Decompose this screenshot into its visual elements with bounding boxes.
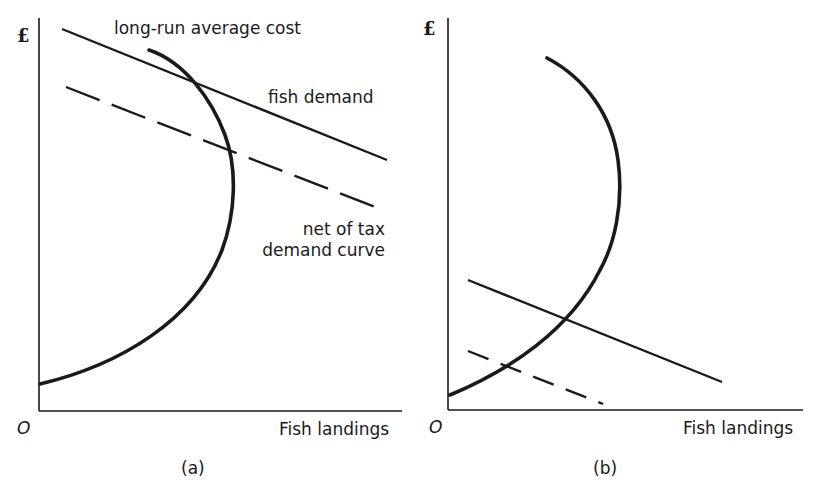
panel-a-net-demand-label-line1: net of tax [292, 221, 385, 238]
panel-b-lrac-curve [450, 58, 620, 395]
panel-a-lrac-label: long-run average cost [114, 20, 301, 37]
panel-a [39, 18, 402, 411]
panel-b-origin-label: O [429, 419, 442, 436]
panel-a-fish-demand-label: fish demand [268, 89, 374, 106]
panel-b [448, 18, 803, 410]
panel-a-origin-label: O [17, 420, 30, 437]
panel-b-y-axis-label: £ [423, 20, 436, 38]
panel-a-lrac-curve [40, 50, 233, 384]
panel-a-net-demand-label-line2: demand curve [255, 242, 385, 259]
panel-b-x-axis-label: Fish landings [683, 420, 793, 437]
panel-a-x-axis-label: Fish landings [279, 421, 389, 438]
panel-b-caption: (b) [593, 460, 617, 477]
panel-a-y-axis-label: £ [17, 27, 30, 45]
panel-a-caption: (a) [181, 460, 205, 477]
